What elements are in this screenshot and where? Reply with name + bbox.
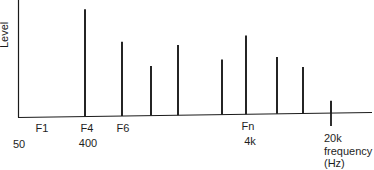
tick-label-400: 400	[79, 137, 97, 149]
tick-label-20k: 20k	[324, 132, 342, 144]
tick-label-4k: 4k	[244, 135, 256, 147]
x-axis-label: frequency	[324, 145, 372, 157]
x-axis	[18, 113, 372, 118]
tick-label-f4: F4	[81, 122, 94, 134]
spectral-lines	[85, 9, 331, 116]
x-axis-unit: (Hz)	[324, 157, 345, 169]
spectrum-chart	[0, 0, 374, 170]
tick-label-fn: Fn	[242, 120, 255, 132]
y-axis-label: Level	[0, 22, 10, 48]
tick-label-f6: F6	[117, 122, 130, 134]
tick-label-50: 50	[13, 138, 25, 150]
tick-label-f1: F1	[36, 122, 49, 134]
